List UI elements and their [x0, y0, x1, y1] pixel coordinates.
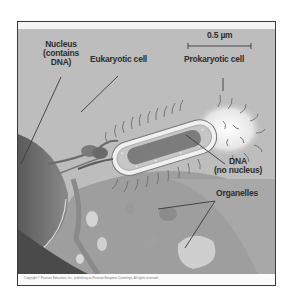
figure-frame: 0.5 µm Nucleus (contains DNA) Eukaryotic…: [17, 21, 276, 286]
cell-illustration: 0.5 µm Nucleus (contains DNA) Eukaryotic…: [18, 29, 275, 274]
caption-strip: Copyright © Pearson Education, Inc., pub…: [18, 274, 275, 285]
label-eukaryotic-cell: Eukaryotic cell: [90, 55, 147, 64]
label-nucleus-line3: DNA): [36, 58, 86, 67]
label-organelles: Organelles: [216, 189, 258, 198]
label-prokaryotic-cell: Prokaryotic cell: [184, 55, 244, 64]
copyright-caption: Copyright © Pearson Education, Inc., pub…: [24, 276, 159, 280]
figure-top-margin: [18, 22, 275, 29]
scale-bar-label: 0.5 µm: [207, 31, 232, 40]
label-nucleus: Nucleus (contains DNA): [36, 40, 86, 67]
label-dna: DNA (no nucleus): [208, 157, 268, 175]
label-dna-line2: (no nucleus): [208, 166, 268, 175]
organelle-1: [159, 207, 177, 221]
